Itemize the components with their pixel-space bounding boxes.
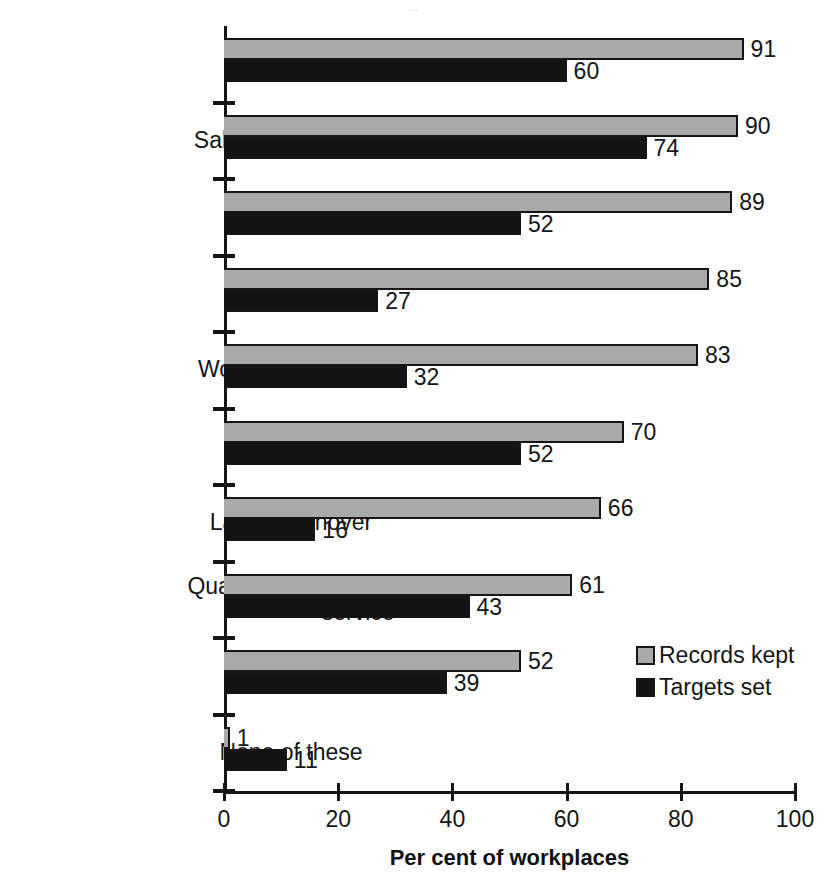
bar-targets-set [224,60,567,82]
bar-group: 9160 [224,26,795,103]
bar-chart: ... 020406080100 CostsSales/Fees/BudgetL… [0,0,827,881]
bar-group: 9074 [224,103,795,180]
bar-value-label: 74 [654,137,680,160]
bar-records-kept [224,497,601,519]
bar-value-label: 52 [528,650,554,673]
x-axis-tick-label: 40 [440,806,466,833]
bar-group: 8952 [224,179,795,256]
bar-value-label: 52 [528,443,554,466]
bar-value-label: 89 [739,191,765,214]
bar-records-kept [224,727,230,749]
x-axis-tick-label: 100 [776,806,814,833]
bar-records-kept [224,268,709,290]
legend-item-targets-set[interactable]: Targets set [636,671,826,703]
bar-targets-set [224,519,315,541]
bar-value-label: 11 [294,749,318,772]
bar-records-kept [224,421,624,443]
legend-label: Targets set [659,674,772,701]
bar-records-kept [224,38,744,60]
bar-group: 7052 [224,409,795,486]
legend-swatch-icon [636,678,655,697]
bar-value-label: 1 [237,727,250,750]
x-axis-title: Per cent of workplaces [224,845,795,871]
legend-label: Records kept [659,642,795,669]
legend-item-records-kept[interactable]: Records kept [636,639,826,671]
bar-group: 111 [224,715,795,792]
bar-targets-set [224,596,470,618]
x-axis-tick-label: 20 [325,806,351,833]
bar-value-label: 83 [705,344,731,367]
bar-value-label: 66 [608,497,634,520]
bar-value-label: 85 [716,268,742,291]
bar-group: 8332 [224,332,795,409]
bar-targets-set [224,749,287,771]
bar-targets-set [224,443,521,465]
page-bleed-text: ... [0,0,827,16]
bar-targets-set [224,213,521,235]
value-axis-line [224,791,795,794]
x-axis-tick-label: 0 [218,806,231,833]
bar-value-label: 60 [574,60,600,83]
bar-targets-set [224,672,447,694]
x-axis-tick-label: 60 [554,806,580,833]
bar-value-label: 32 [414,366,440,389]
bar-group: 8527 [224,256,795,333]
bar-targets-set [224,137,647,159]
bar-records-kept [224,191,732,213]
bar-value-label: 43 [477,596,503,619]
bar-value-label: 16 [322,519,348,542]
legend: Records kept Targets set [636,639,826,703]
legend-swatch-icon [636,646,655,665]
bar-records-kept [224,650,521,672]
bar-targets-set [224,366,407,388]
bar-value-label: 52 [528,213,554,236]
bar-records-kept [224,115,738,137]
bar-group: 6143 [224,562,795,639]
bar-value-label: 27 [385,290,411,313]
bar-group: 6616 [224,485,795,562]
bar-value-label: 70 [631,421,657,444]
bar-records-kept [224,344,698,366]
bar-value-label: 91 [751,38,777,61]
bar-records-kept [224,574,572,596]
bar-value-label: 39 [454,672,480,695]
x-axis-tick-label: 80 [668,806,694,833]
bar-targets-set [224,290,378,312]
bar-value-label: 90 [745,115,771,138]
bar-value-label: 61 [579,574,605,597]
